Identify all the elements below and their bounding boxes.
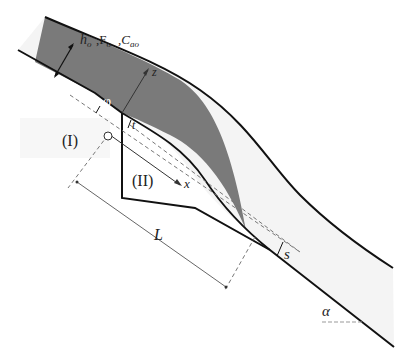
label-z: z [151,65,157,79]
label-x: x [183,176,190,191]
dashed-ext-right [225,237,255,290]
x-axis-arrowhead [174,179,182,186]
label-phi: φ [103,94,111,109]
label-region-I: (I) [62,132,78,150]
L-tick-end [225,286,228,289]
label-s: s [284,246,290,262]
t-dimension-arrow [128,120,131,128]
phi-dimension-tick [96,106,100,113]
origin-marker [104,132,112,140]
label-F0: ,Fo [96,32,111,49]
label-alpha: α [322,303,331,319]
label-C0: ,Cao [118,32,139,49]
spillway-diagram: ho ,Fo ,Cao φ z x t (I) (II) L s α [0,0,409,362]
L-tick-start [76,181,79,184]
label-L: L [153,226,163,243]
label-region-II: (II) [132,172,153,190]
label-h0: ho [80,32,92,49]
L-dimension-line [77,182,226,287]
